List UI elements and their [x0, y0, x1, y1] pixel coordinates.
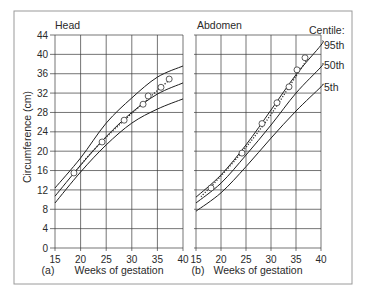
panel-label-b: (b): [192, 264, 205, 276]
centile-label-95th: 95th: [324, 39, 345, 51]
observation-marker: [140, 101, 146, 107]
y-tick-label: 0: [42, 243, 48, 254]
centile-label-50th: 50th: [324, 59, 345, 71]
y-tick-label: 20: [37, 146, 49, 157]
observation-marker: [121, 117, 127, 123]
abdomen-x-axis-title: Weeks of gestation: [213, 264, 302, 276]
y-tick-label: 12: [37, 185, 49, 196]
head-panel-title: Head: [55, 19, 80, 31]
y-tick-label: 44: [37, 30, 49, 41]
y-tick-label: 28: [37, 107, 49, 118]
observation-marker: [166, 76, 172, 82]
centile-legend-title: Centile:: [309, 24, 345, 36]
observation-marker: [239, 150, 245, 156]
observation-marker: [294, 67, 300, 73]
panel-label-a: (a): [42, 264, 55, 276]
centile-label-5th: 5th: [324, 81, 339, 93]
y-tick-label: 4: [42, 223, 48, 234]
y-tick-label: 24: [37, 126, 49, 137]
observation-marker: [286, 84, 292, 90]
observation-marker: [158, 84, 164, 90]
observation-marker: [208, 185, 214, 191]
observation-marker: [145, 93, 151, 99]
head-x-axis-title: Weeks of gestation: [74, 264, 163, 276]
y-tick-label: 40: [37, 49, 49, 60]
x-tick-label: 40: [177, 254, 189, 265]
abdomen-panel-title: Abdomen: [197, 19, 242, 31]
y-tick-label: 32: [37, 88, 49, 99]
y-axis-title: Circumference (cm): [21, 91, 33, 183]
y-tick-label: 36: [37, 68, 49, 79]
observation-marker: [259, 121, 265, 127]
y-tick-label: 16: [37, 165, 49, 176]
fetal-growth-chart-figure: Head 048121620242832364044152025303540 (…: [0, 0, 369, 297]
x-tick-label: 40: [315, 254, 327, 265]
observation-marker: [99, 139, 105, 145]
y-tick-label: 8: [42, 204, 48, 215]
observation-marker: [302, 55, 308, 61]
observation-marker: [71, 170, 77, 176]
observation-marker: [274, 100, 280, 106]
